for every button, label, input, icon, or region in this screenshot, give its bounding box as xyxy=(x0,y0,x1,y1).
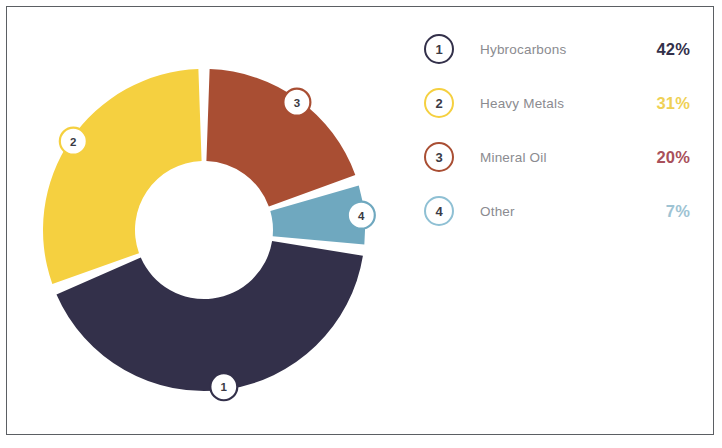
legend-row[interactable]: 3Mineral Oil20% xyxy=(424,138,690,176)
slice-badge[interactable]: 2 xyxy=(60,128,87,155)
slice-badge-number: 1 xyxy=(221,381,228,393)
legend-row[interactable]: 1Hybrocarbons42% xyxy=(424,30,690,68)
donut-slices xyxy=(43,69,365,391)
chart-legend: 1Hybrocarbons42%2Heavy Metals31%3Mineral… xyxy=(424,30,690,246)
legend-badge: 1 xyxy=(424,34,454,64)
donut-chart: 1234 xyxy=(38,62,378,402)
legend-percent: 42% xyxy=(638,40,690,59)
legend-badge-number: 3 xyxy=(435,151,442,164)
legend-badge: 2 xyxy=(424,88,454,118)
chart-page: 1234 1Hybrocarbons42%2Heavy Metals31%3Mi… xyxy=(0,0,722,448)
donut-slice[interactable] xyxy=(206,69,355,206)
slice-badge-number: 2 xyxy=(70,136,76,148)
donut-slice[interactable] xyxy=(43,69,202,284)
legend-badge: 4 xyxy=(424,196,454,226)
legend-badge-number: 1 xyxy=(435,43,442,56)
legend-label: Heavy Metals xyxy=(480,96,638,111)
legend-row[interactable]: 2Heavy Metals31% xyxy=(424,84,690,122)
legend-percent: 20% xyxy=(638,148,690,167)
slice-badge[interactable]: 4 xyxy=(348,202,375,229)
legend-badge-number: 4 xyxy=(435,205,442,218)
slice-badge-number: 4 xyxy=(358,210,365,222)
legend-row[interactable]: 4Other7% xyxy=(424,192,690,230)
legend-badge-number: 2 xyxy=(435,97,442,110)
legend-label: Other xyxy=(480,204,638,219)
legend-label: Hybrocarbons xyxy=(480,42,638,57)
legend-percent: 7% xyxy=(638,202,690,221)
legend-percent: 31% xyxy=(638,94,690,113)
legend-label: Mineral Oil xyxy=(480,150,638,165)
slice-badge[interactable]: 1 xyxy=(210,373,237,400)
slice-badge-number: 3 xyxy=(294,97,300,109)
slice-badge[interactable]: 3 xyxy=(283,89,310,116)
donut-svg: 1234 xyxy=(38,62,378,402)
legend-badge: 3 xyxy=(424,142,454,172)
